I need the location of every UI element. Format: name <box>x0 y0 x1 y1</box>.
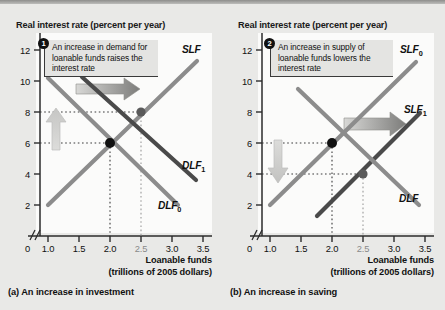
panel-b-curve-dlf <box>298 89 419 205</box>
panel-b-increase-in-saving: Real interest rate (percent per year) <box>222 0 444 310</box>
panel-b-equilibrium-initial <box>327 138 337 148</box>
panel-b-axis-break <box>252 230 262 240</box>
panel-b-label-slf0-text: SLF <box>400 44 419 55</box>
panel-b-equilibrium-new <box>358 169 367 178</box>
panel-b-callout-badge: 2 <box>264 38 275 49</box>
panel-b-x-ticks <box>270 236 425 242</box>
panel-a-ytick-6: 6 <box>14 138 30 149</box>
panel-b-ytick-8: 8 <box>236 107 252 118</box>
panel-b-xtick-1-5: 1.5 <box>289 243 313 254</box>
panel-b-xtick-2-5: 2.5 <box>351 243 375 254</box>
panel-a-ytick-8: 8 <box>14 107 30 118</box>
panel-a-label-dlf0: DLF0 <box>158 200 181 214</box>
panel-a-caption: (a) An increase in investment <box>8 287 134 297</box>
panel-a-increase-in-investment: Real interest rate (percent per year) <box>0 0 222 310</box>
panel-a-interest-rate-up-arrow <box>46 108 66 150</box>
panel-a-label-slf-text: SLF <box>182 44 201 55</box>
panel-a-xtick-3-0: 3.0 <box>160 243 184 254</box>
panel-a-ytick-2: 2 <box>14 200 30 211</box>
panel-b-label-dlf-text: DLF <box>399 193 418 204</box>
panel-a-x-axis-label-line2: (trillions of 2005 dollars) <box>62 267 212 277</box>
panel-a-callout-box: An increase in demand for loanable funds… <box>44 40 158 77</box>
panel-b-label-dlf: DLF <box>399 193 418 204</box>
panel-b-xtick-1-0: 1.0 <box>258 243 282 254</box>
panel-a-x-ticks <box>48 236 203 242</box>
panel-b-caption: (b) An increase in saving <box>230 287 337 297</box>
panel-a-equilibrium-initial <box>105 138 115 148</box>
panel-a-xtick-3-5: 3.5 <box>191 243 215 254</box>
panel-b-callout-box: An increase in supply of loanable funds … <box>270 40 393 77</box>
panel-a-y-ticks <box>34 50 40 205</box>
panel-b-x-axis-label-line1: Loanable funds <box>314 255 434 265</box>
panel-b-label-slf1-text: SLF <box>404 104 423 115</box>
panel-b-ytick-2: 2 <box>236 200 252 211</box>
panel-a-label-dlf1: DLF1 <box>182 160 205 174</box>
panel-b-ytick-4: 4 <box>236 169 252 180</box>
panel-a-label-dlf0-sub: 0 <box>177 205 181 214</box>
panel-b-xtick-3-5: 3.5 <box>413 243 437 254</box>
panel-b-xtick-2-0: 2.0 <box>320 243 344 254</box>
panel-b-label-slf1-sub: 1 <box>423 109 427 118</box>
panel-a-xtick-1-0: 1.0 <box>36 243 60 254</box>
panel-a-curve-slf <box>48 61 197 205</box>
panel-a-xtick-2-0: 2.0 <box>98 243 122 254</box>
panel-b-x-axis-label-line2: (trillions of 2005 dollars) <box>284 267 434 277</box>
panel-a-label-dlf1-text: DLF <box>182 160 201 171</box>
panel-b-ytick-12: 12 <box>236 45 252 56</box>
panel-b-xtick-3-0: 3.0 <box>382 243 406 254</box>
panel-b-label-slf0: SLF0 <box>400 44 423 58</box>
panel-a-xtick-1-5: 1.5 <box>67 243 91 254</box>
panel-a-equilibrium-new <box>136 107 145 116</box>
panel-a-label-dlf1-sub: 1 <box>201 165 205 174</box>
panel-a-ytick-12: 12 <box>14 45 30 56</box>
panel-a-callout-badge: 1 <box>38 38 49 49</box>
panel-a-axis-break <box>30 230 40 240</box>
panel-b-label-slf1: SLF1 <box>404 104 427 118</box>
panel-b-y-ticks <box>256 50 262 205</box>
panel-b-callout-text: An increase in supply of loanable funds … <box>278 42 370 73</box>
loanable-funds-figure: Real interest rate (percent per year) <box>0 0 445 310</box>
panel-b-label-slf0-sub: 0 <box>419 49 423 58</box>
panel-b-ytick-6: 6 <box>236 138 252 149</box>
panel-b-interest-rate-down-arrow <box>268 140 288 183</box>
panel-a-ytick-4: 4 <box>14 169 30 180</box>
panel-a-callout-text: An increase in demand for loanable funds… <box>52 42 147 73</box>
panel-a-x-axis-label-line1: Loanable funds <box>92 255 212 265</box>
panel-b-ytick-10: 10 <box>236 76 252 87</box>
panel-a-xtick-2-5: 2.5 <box>129 243 153 254</box>
panel-a-ytick-0: 0 <box>14 243 30 254</box>
panel-b-ytick-0: 0 <box>236 243 252 254</box>
panel-a-label-dlf0-text: DLF <box>158 200 177 211</box>
panel-a-label-slf: SLF <box>182 44 201 55</box>
panel-a-ytick-10: 10 <box>14 76 30 87</box>
